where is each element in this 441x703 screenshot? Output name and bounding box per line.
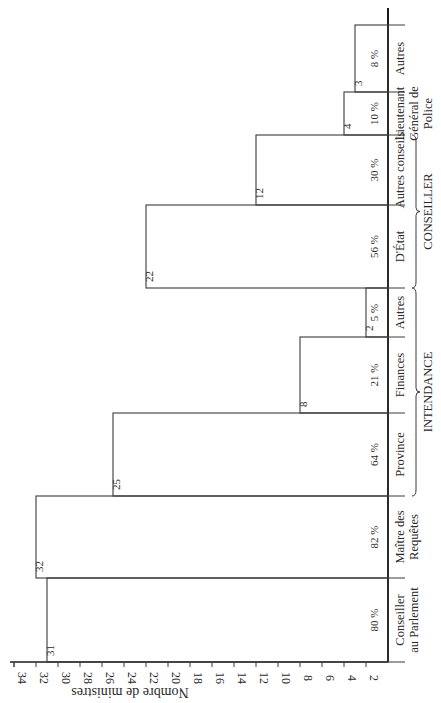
bar: 2564 %: [110, 413, 388, 496]
category-label: Autres: [393, 296, 407, 329]
group-label: INTENDANCE: [421, 351, 435, 432]
tick-label: 12: [257, 672, 271, 684]
category-label: Finances: [393, 353, 407, 398]
bar-value-label: 4: [341, 123, 353, 129]
bars: 3180 %3282 %2564 %821 %25 %2256 %1230 %4…: [33, 25, 388, 662]
tick-label: 16: [213, 672, 227, 684]
group-brace: [412, 135, 420, 288]
category-label: Conseillerau Parlement: [393, 587, 421, 653]
bar-rect: [113, 413, 388, 496]
tick-label: 28: [81, 672, 95, 684]
bar-percent-label: 5 %: [368, 304, 380, 321]
tick-label: 18: [191, 672, 205, 684]
bar-percent-label: 21 %: [368, 364, 380, 387]
bar-percent-label: 80 %: [368, 609, 380, 632]
tick-label: 24: [125, 672, 139, 684]
histogram-chart: 246810121416182022242628303234Nombre de …: [0, 0, 441, 703]
bar-rect: [146, 205, 388, 288]
bar-percent-label: 10 %: [368, 102, 380, 125]
bar-percent-label: 56 %: [368, 235, 380, 258]
tick-label: 10: [279, 672, 293, 684]
category-label: LieutenantGénéral dePolice: [393, 86, 435, 141]
tick-label: 32: [37, 672, 51, 684]
bar-value-label: 3: [352, 80, 364, 86]
bar-value-label: 25: [110, 479, 122, 491]
bar-value-label: 22: [143, 271, 155, 282]
tick-label: 22: [147, 672, 161, 684]
bar: 3180 %: [44, 578, 388, 662]
tick-label: 8: [301, 675, 315, 681]
bar-rect: [47, 578, 388, 662]
bar: 1230 %: [253, 135, 388, 205]
group-brace: [412, 288, 420, 496]
bar-value-label: 31: [44, 645, 56, 656]
bar: 25 %: [363, 288, 388, 337]
bar-percent-label: 64 %: [368, 443, 380, 466]
bar-percent-label: 30 %: [368, 159, 380, 182]
group-label: CONSEILLER: [421, 173, 435, 250]
tick-label: 30: [59, 672, 73, 684]
value-axis-ticks: 246810121416182022242628303234: [14, 662, 381, 684]
category-label: Province: [393, 432, 407, 477]
bar: 38 %: [352, 25, 388, 92]
bar: 410 %: [341, 92, 388, 135]
value-axis-title: Nombre de ministres: [71, 685, 188, 700]
tick-label: 2: [367, 675, 381, 681]
tick-label: 4: [345, 675, 359, 681]
tick-label: 26: [103, 672, 117, 684]
bar-rect: [36, 496, 388, 578]
bar-value-label: 32: [33, 561, 45, 572]
tick-label: 20: [169, 672, 183, 684]
tick-label: 14: [235, 672, 249, 684]
category-label: Autres conseils: [393, 132, 407, 209]
bar: 821 %: [297, 337, 388, 413]
bar-percent-label: 82 %: [368, 526, 380, 549]
bar: 3282 %: [33, 496, 388, 578]
bar-value-label: 12: [253, 188, 265, 199]
bar-value-label: 8: [297, 401, 309, 407]
bar-percent-label: 8 %: [368, 50, 380, 67]
bar-value-label: 2: [363, 326, 375, 332]
category-label: Autres: [393, 42, 407, 75]
category-labels: Conseillerau ParlementMaître desRequêtes…: [393, 42, 435, 653]
category-label: Maître desRequêtes: [393, 510, 421, 563]
tick-label: 34: [15, 672, 29, 684]
tick-label: 6: [323, 675, 337, 681]
category-label: D'État: [393, 230, 407, 262]
bar: 2256 %: [143, 205, 388, 288]
category-groups: INTENDANCECONSEILLER: [412, 135, 435, 496]
